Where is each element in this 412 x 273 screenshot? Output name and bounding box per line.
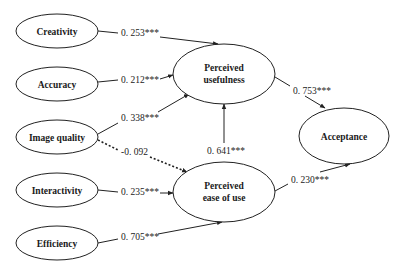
node-label-line2: ease of use <box>203 193 246 203</box>
node-label: Image quality <box>29 133 85 143</box>
coef-interactivity-peou: 0. 235*** <box>121 187 159 197</box>
coef-peou-acceptance: 0. 230*** <box>291 175 329 185</box>
node-label: Creativity <box>37 27 78 37</box>
edge-imagequality-peou-b <box>150 157 187 172</box>
edge-peou-acceptance-b <box>320 164 350 172</box>
edge-pu-acceptance-a <box>275 77 290 86</box>
node-label: Accuracy <box>38 80 77 90</box>
edge-accuracy-pu-a <box>98 80 118 82</box>
node-accuracy: Accuracy <box>16 67 98 101</box>
node-label: Acceptance <box>321 132 367 142</box>
coef-peou-pu: 0. 641*** <box>207 146 245 156</box>
node-acceptance: Acceptance <box>299 108 389 164</box>
node-interactivity: Interactivity <box>16 173 98 207</box>
edge-efficiency-peou-a <box>98 239 118 243</box>
edge-imagequality-pu-b <box>158 94 189 112</box>
edge-pu-acceptance-b <box>305 96 325 108</box>
node-label: Interactivity <box>32 186 83 196</box>
edge-accuracy-pu-b <box>160 75 173 79</box>
edge-creativity-pu-a <box>98 31 118 33</box>
coef-efficiency-peou: 0. 705*** <box>121 232 159 242</box>
edge-imagequality-peou-a <box>98 140 118 150</box>
node-perceived-ease-of-use: Perceived ease of use <box>173 162 275 222</box>
node-label-line1: Perceived <box>204 181 244 191</box>
node-label: Efficiency <box>37 239 78 249</box>
node-efficiency: Efficiency <box>16 226 98 260</box>
node-image-quality: Image quality <box>16 120 98 154</box>
edge-efficiency-peou-b <box>158 222 222 234</box>
edge-peou-acceptance-a <box>275 184 288 191</box>
edge-interactivity-peou-a <box>98 190 118 192</box>
coef-imagequality-pu: 0. 338*** <box>121 113 159 123</box>
node-creativity: Creativity <box>16 14 98 48</box>
node-perceived-usefulness: Perceived usefulness <box>173 44 275 104</box>
edge-imagequality-pu-a <box>98 123 118 134</box>
node-label-line1: Perceived <box>204 63 244 73</box>
coef-pu-acceptance: 0. 753*** <box>293 86 331 96</box>
coef-accuracy-pu: 0. 212*** <box>121 75 159 85</box>
coef-imagequality-peou: -0. 092 <box>121 147 148 157</box>
edge-creativity-pu-b <box>160 37 218 44</box>
sem-diagram: 0. 253*** 0. 212*** 0. 338*** -0. 092 0.… <box>0 0 412 273</box>
coef-creativity-pu: 0. 253*** <box>121 28 159 38</box>
node-label-line2: usefulness <box>203 75 244 85</box>
